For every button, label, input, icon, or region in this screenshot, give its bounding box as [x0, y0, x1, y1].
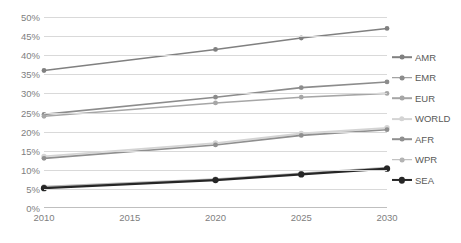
x-axis-tick-label: 2030 — [376, 212, 397, 223]
y-axis-tick-label: 30% — [2, 88, 40, 99]
legend-item-sea[interactable]: SEA — [392, 170, 458, 191]
grid-line — [44, 36, 387, 37]
legend-item-world[interactable]: WORLD — [392, 109, 458, 130]
legend-swatch-icon — [392, 72, 412, 84]
grid-line — [44, 17, 387, 18]
data-point-marker — [213, 47, 218, 52]
legend-swatch-icon — [392, 92, 412, 104]
data-point-marker — [213, 101, 218, 106]
legend-item-emr[interactable]: EMR — [392, 68, 458, 89]
x-axis-tick-label: 2020 — [205, 212, 226, 223]
legend-item-wpr[interactable]: WPR — [392, 150, 458, 171]
data-point-marker — [385, 80, 390, 85]
data-point-marker — [299, 95, 304, 100]
data-point-marker — [212, 177, 218, 183]
y-axis-tick-label: 45% — [2, 31, 40, 42]
legend-item-eur[interactable]: EUR — [392, 88, 458, 109]
grid-line — [44, 170, 387, 171]
y-axis-tick-label: 35% — [2, 69, 40, 80]
x-axis-line — [44, 207, 387, 208]
grid-line — [44, 93, 387, 94]
grid-line — [44, 55, 387, 56]
x-axis-tick-label: 2025 — [291, 212, 312, 223]
data-point-marker — [42, 156, 47, 161]
data-point-marker — [213, 95, 218, 100]
legend-label: AFR — [415, 135, 434, 145]
x-axis-tick-label: 2010 — [33, 212, 54, 223]
grid-line — [44, 132, 387, 133]
chart-legend: AMREMREURWORLDAFRWPRSEA — [392, 47, 458, 191]
legend-swatch-icon — [392, 51, 412, 63]
legend-item-afr[interactable]: AFR — [392, 129, 458, 150]
x-axis-tick-label: 2015 — [119, 212, 140, 223]
legend-label: SEA — [415, 176, 434, 186]
y-axis-tick-label: 40% — [2, 50, 40, 61]
chart-screenshot: 0%5%10%15%20%25%30%35%40%45%50% 20102015… — [0, 0, 461, 243]
y-axis-tick-label: 25% — [2, 107, 40, 118]
y-axis-tick-label: 20% — [2, 126, 40, 137]
legend-swatch-icon — [392, 113, 412, 125]
data-point-marker — [385, 26, 390, 31]
legend-swatch-icon — [392, 133, 412, 145]
data-point-marker — [299, 133, 304, 138]
grid-line — [44, 189, 387, 190]
legend-label: EUR — [415, 94, 435, 104]
y-axis: 0%5%10%15%20%25%30%35%40%45%50% — [0, 17, 40, 208]
legend-swatch-icon — [392, 154, 412, 166]
data-point-marker — [213, 143, 218, 148]
legend-label: WORLD — [415, 114, 450, 124]
legend-label: AMR — [415, 53, 436, 63]
data-point-marker — [384, 166, 390, 172]
y-axis-tick-label: 10% — [2, 164, 40, 175]
legend-swatch-icon — [392, 174, 412, 186]
series-amr — [42, 26, 390, 73]
grid-line — [44, 113, 387, 114]
grid-line — [44, 151, 387, 152]
legend-item-amr[interactable]: AMR — [392, 47, 458, 68]
plot-area — [44, 17, 387, 208]
data-point-marker — [298, 171, 304, 177]
y-axis-tick-label: 15% — [2, 145, 40, 156]
legend-label: WPR — [415, 155, 437, 165]
y-axis-tick-label: 5% — [2, 183, 40, 194]
grid-line — [44, 74, 387, 75]
y-axis-tick-label: 50% — [2, 12, 40, 23]
series-emr — [42, 80, 390, 117]
data-point-marker — [42, 114, 47, 119]
legend-label: EMR — [415, 73, 436, 83]
x-axis: 20102015202020252030 — [44, 212, 387, 230]
data-point-marker — [299, 85, 304, 90]
data-point-marker — [42, 68, 47, 73]
